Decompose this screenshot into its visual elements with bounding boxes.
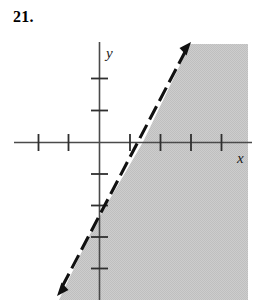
shaded-region [59,44,248,300]
x-axis-label: x [236,150,244,166]
y-axis-label: y [104,45,113,61]
figure-container: 21. [0,0,256,300]
coordinate-graph: y x [0,0,256,300]
